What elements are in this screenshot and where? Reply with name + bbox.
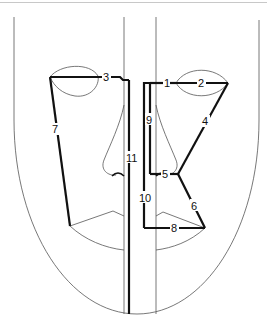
label-9: 9: [145, 113, 154, 126]
label-8: 8: [170, 222, 179, 234]
label-3: 3: [102, 71, 111, 83]
nose-right: [156, 105, 177, 175]
svg-text:8: 8: [171, 222, 177, 234]
nose-left: [103, 105, 124, 175]
svg-text:7: 7: [52, 123, 58, 135]
nostril-left: [112, 173, 124, 176]
svg-text:2: 2: [198, 77, 204, 89]
lower-lip-right: [156, 228, 205, 250]
upper-lip-left: [70, 211, 124, 226]
segment-4: [178, 83, 228, 174]
svg-text:9: 9: [146, 114, 152, 126]
face-outline: [14, 17, 259, 314]
label-6: 6: [190, 199, 199, 212]
segment-3: [50, 77, 129, 80]
left-eye: [50, 66, 98, 96]
svg-text:3: 3: [103, 71, 109, 83]
label-7: 7: [51, 123, 60, 135]
label-5: 5: [161, 168, 170, 180]
svg-text:10: 10: [139, 192, 151, 204]
label-11: 11: [125, 151, 137, 164]
label-10: 10: [138, 191, 152, 204]
label-4: 4: [201, 115, 210, 127]
face-diagram: 1 2 3 4 5 6 7 8 9 10 11: [0, 0, 267, 327]
svg-text:5: 5: [162, 168, 168, 180]
segment-7: [50, 77, 70, 226]
svg-text:6: 6: [191, 200, 197, 212]
label-1: 1: [163, 77, 170, 89]
svg-text:11: 11: [126, 152, 137, 164]
svg-text:1: 1: [164, 77, 170, 89]
label-2: 2: [197, 77, 206, 89]
svg-text:4: 4: [202, 115, 208, 127]
lower-lip-left: [70, 226, 124, 250]
